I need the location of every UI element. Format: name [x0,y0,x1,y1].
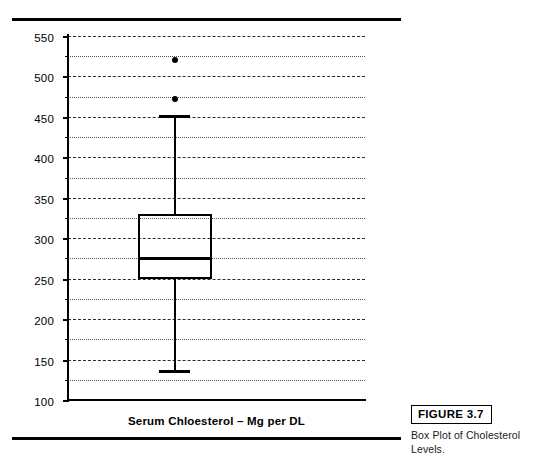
gridline-major [68,36,365,37]
gridline-minor [68,258,365,259]
y-tick-major: 400 [63,157,69,159]
y-tick-minor [65,218,69,219]
y-tick-label: 400 [34,153,54,165]
y-tick-label: 450 [34,113,54,125]
y-tick-major: 150 [63,360,69,362]
gridline-minor [68,137,365,138]
gridline-minor [68,56,365,57]
gridline-minor [68,218,365,219]
y-tick-label: 150 [34,356,54,368]
y-tick-major: 300 [63,238,69,240]
median-line [138,257,212,260]
page-rule-top [12,18,401,21]
gridline-minor [68,380,365,381]
gridline-major [68,117,365,118]
gridline-minor [68,339,365,340]
y-tick-label: 100 [34,396,54,408]
outlier-point [172,96,178,102]
y-tick-minor [65,178,69,179]
y-tick-label: 300 [34,234,54,246]
y-tick-major: 500 [63,76,69,78]
y-tick-minor [65,258,69,259]
y-tick-minor [65,56,69,57]
whisker-cap-lower [159,370,190,373]
gridline-minor [68,97,365,98]
gridline-major [68,238,365,239]
y-tick-label: 500 [34,72,54,84]
page-rule-bottom [12,437,401,440]
y-tick-label: 200 [34,315,54,327]
gridline-major [68,279,365,280]
y-tick-minor [65,380,69,381]
x-axis-title: Serum Chloesterol – Mg per DL [68,415,365,427]
outlier-point [172,57,178,63]
gridline-major [68,157,365,158]
y-tick-minor [65,339,69,340]
gridline-minor [68,299,365,300]
gridline-major [68,360,365,361]
y-tick-major: 350 [63,198,69,200]
y-tick-major: 200 [63,319,69,321]
figure-caption-text: Box Plot of Cholesterol Levels. [411,429,543,456]
y-tick-minor [65,97,69,98]
y-tick-major: 550 [63,36,69,38]
whisker-lower [174,279,177,372]
gridline-minor [68,178,365,179]
gridline-major [68,198,365,199]
figure-caption-block: FIGURE 3.7 Box Plot of Cholesterol Level… [411,404,543,456]
y-tick-minor [65,299,69,300]
whisker-upper [174,117,177,214]
y-tick-label: 350 [34,194,54,206]
gridline-major [68,319,365,320]
gridline-major [68,76,365,77]
y-tick-major: 450 [63,117,69,119]
y-tick-minor [65,137,69,138]
box-iqr [138,214,212,279]
plot-area: 550500450400350300250200150100 [68,36,365,400]
y-tick-label: 550 [34,32,54,44]
y-tick-major: 250 [63,279,69,281]
whisker-cap-upper [159,115,190,118]
figure-container: 550500450400350300250200150100 Serum Chl… [0,0,547,465]
figure-number-badge: FIGURE 3.7 [411,405,492,424]
y-tick-label: 250 [34,275,54,287]
y-tick-major: 100 [63,400,69,402]
